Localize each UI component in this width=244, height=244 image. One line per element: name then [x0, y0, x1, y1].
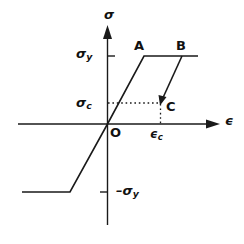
- stress-strain-figure: σ ϵ σy σc –σy ϵc A B C O: [0, 0, 244, 244]
- sigma-y-label-main: σ: [76, 46, 86, 61]
- neg-sigma-y-label: –σy: [116, 184, 139, 197]
- epsilon-c-label-sub: c: [158, 132, 163, 142]
- sigma-y-label-sub: y: [86, 51, 92, 62]
- sigma-c-label: σc: [76, 96, 92, 109]
- sigma-c-label-main: σ: [76, 95, 86, 110]
- unloading-curve-bc: [162, 56, 183, 101]
- sigma-axis-label: σ: [104, 8, 114, 21]
- epsilon-c-label: ϵc: [150, 128, 163, 140]
- epsilon-c-label-main: ϵ: [150, 127, 158, 141]
- sigma-y-label: σy: [76, 47, 92, 60]
- point-c-label: C: [166, 100, 176, 113]
- epsilon-axis-arrowhead: [206, 120, 220, 129]
- neg-sigma-y-label-sub: y: [133, 188, 139, 199]
- sigma-axis-arrowhead: [103, 25, 112, 39]
- point-b-label: B: [176, 39, 186, 52]
- origin-label: O: [110, 126, 121, 139]
- neg-sigma-y-label-main: –σ: [116, 183, 133, 198]
- figure-canvas: [0, 0, 244, 244]
- epsilon-axis-label: ϵ: [225, 114, 233, 127]
- sigma-c-label-sub: c: [86, 100, 92, 111]
- point-a-label: A: [134, 39, 144, 52]
